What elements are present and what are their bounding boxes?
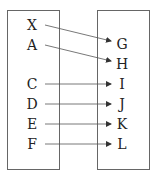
domain-element-c: C bbox=[27, 76, 38, 92]
codomain-element-g: G bbox=[116, 36, 127, 52]
arrow-a-to-h bbox=[45, 45, 111, 61]
codomain-element-j: J bbox=[117, 96, 125, 112]
codomain-element-l: L bbox=[117, 136, 126, 152]
domain-element-a: A bbox=[26, 37, 38, 53]
codomain-element-i: I bbox=[119, 76, 125, 92]
domain-labels: X A C D E F bbox=[26, 17, 38, 152]
codomain-labels: G H I J K L bbox=[116, 36, 128, 152]
domain-element-f: F bbox=[27, 136, 37, 152]
arrow-x-to-g bbox=[45, 25, 111, 41]
codomain-element-h: H bbox=[116, 56, 128, 72]
domain-element-d: D bbox=[26, 96, 37, 112]
mapping-diagram: X A C D E F G H I J K L bbox=[0, 0, 158, 179]
domain-element-x: X bbox=[27, 17, 37, 33]
domain-element-e: E bbox=[27, 116, 37, 132]
mapping-arrows bbox=[45, 25, 111, 144]
codomain-element-k: K bbox=[117, 116, 128, 132]
